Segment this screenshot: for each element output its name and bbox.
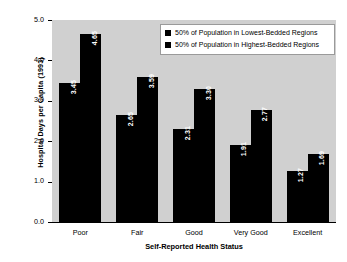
x-axis-title: Self-Reported Health Status xyxy=(52,242,336,251)
bar: 2.31 xyxy=(173,129,194,222)
bar-value-label: 1.69 xyxy=(318,151,325,165)
bar-value-label: 2.31 xyxy=(184,125,191,139)
bar: 2.77 xyxy=(251,110,272,222)
legend-swatch-icon xyxy=(165,30,171,36)
x-axis-tick-label: Excellent xyxy=(293,228,322,237)
x-axis-tick-label: Poor xyxy=(73,228,88,237)
bar-value-label: 2.65 xyxy=(127,112,134,126)
bar: 3.45 xyxy=(59,83,80,222)
bar-value-label: 1.27 xyxy=(297,167,304,181)
y-axis: 0.01.02.03.04.05.0 xyxy=(0,20,52,222)
x-axis-tick-label: Very Good xyxy=(234,228,268,237)
y-axis-tick-label: 3.0 xyxy=(34,95,44,104)
legend-item-highest-bedded: 50% of Population in Highest-Bedded Regi… xyxy=(165,40,330,50)
y-axis-tick-label: 0.0 xyxy=(34,217,44,226)
legend-item-label: 50% of Population in Lowest-Bedded Regio… xyxy=(175,29,317,37)
y-axis-tick-label: 1.0 xyxy=(34,176,44,185)
bar-value-label: 4.65 xyxy=(91,31,98,45)
x-axis-line xyxy=(52,222,336,223)
x-axis-tick-label: Good xyxy=(185,228,203,237)
chart-legend: 50% of Population in Lowest-Bedded Regio… xyxy=(160,24,335,55)
bar-value-label: 3.45 xyxy=(70,79,77,93)
bar: 3.59 xyxy=(137,77,158,222)
bar-value-label: 3.30 xyxy=(205,85,212,99)
y-axis-tick-label: 2.0 xyxy=(34,136,44,145)
y-axis-tick-label: 5.0 xyxy=(34,15,44,24)
legend-swatch-icon xyxy=(165,42,171,48)
bar-value-label: 1.91 xyxy=(240,142,247,156)
bar-group: 3.454.65 xyxy=(59,20,101,222)
legend-item-lowest-bedded: 50% of Population in Lowest-Bedded Regio… xyxy=(165,28,330,38)
bar: 3.30 xyxy=(194,89,215,222)
x-axis-tick-labels: PoorFairGoodVery GoodExcellent xyxy=(52,228,336,240)
bar: 4.65 xyxy=(80,34,101,222)
legend-item-label: 50% of Population in Highest-Bedded Regi… xyxy=(175,41,319,49)
bar: 1.69 xyxy=(308,154,329,222)
y-axis-tick-label: 4.0 xyxy=(34,55,44,64)
bar: 2.65 xyxy=(116,115,137,222)
x-axis-tick-label: Fair xyxy=(131,228,143,237)
bar: 1.27 xyxy=(287,171,308,222)
bar-value-label: 3.59 xyxy=(148,74,155,88)
bar: 1.91 xyxy=(230,145,251,222)
bar-value-label: 2.77 xyxy=(261,107,268,121)
bar-group: 2.653.59 xyxy=(116,20,158,222)
bar-chart: Hospital Days per Capita (1993) 0.01.02.… xyxy=(0,0,347,262)
